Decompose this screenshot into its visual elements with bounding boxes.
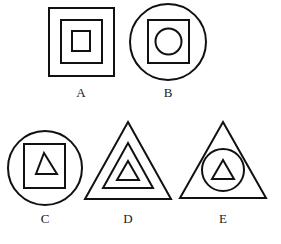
inner-square-shape	[72, 31, 90, 51]
square-shape	[148, 20, 189, 63]
inner-circle-shape	[156, 29, 182, 55]
figure-c: C	[8, 131, 82, 226]
figure-d: D	[85, 122, 171, 226]
inner-triangle-shape	[212, 160, 234, 179]
circle-shape	[202, 149, 244, 191]
square-shape	[24, 144, 65, 188]
shape-pattern-diagram: A B C D E	[0, 0, 281, 244]
figure-label-c: C	[41, 211, 50, 226]
figure-label-a: A	[76, 85, 86, 100]
figure-label-b: B	[164, 85, 173, 100]
middle-triangle-shape	[103, 143, 153, 188]
middle-square-shape	[61, 20, 102, 63]
figure-a: A	[49, 8, 114, 100]
inner-triangle-shape	[117, 161, 139, 180]
outer-circle-shape	[130, 4, 206, 80]
figure-e: E	[180, 122, 266, 226]
figure-label-e: E	[219, 211, 227, 226]
figure-label-d: D	[123, 211, 132, 226]
outer-circle-shape	[8, 131, 82, 205]
figure-b: B	[130, 4, 206, 100]
inner-triangle-shape	[36, 153, 57, 174]
outer-square-shape	[49, 8, 114, 76]
